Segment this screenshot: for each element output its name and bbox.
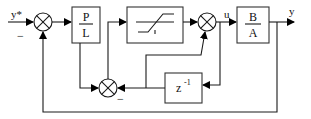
controller-to-antiwindup-arrow <box>80 43 98 88</box>
sum-antiwindup <box>99 79 117 97</box>
block-diagram: y* − P L u B A <box>0 0 311 119</box>
saturation-block <box>127 7 183 43</box>
controller-block: P L <box>72 7 100 43</box>
plant-block: B A <box>237 7 269 43</box>
controller-numerator: P <box>83 10 90 24</box>
plant-denominator: A <box>249 26 258 40</box>
reference-label: y* <box>11 8 22 20</box>
minus-sign-feedback: − <box>17 29 24 43</box>
control-to-delay-arrow <box>203 22 220 85</box>
controller-denominator: L <box>82 26 89 40</box>
control-signal-label: u <box>224 8 230 20</box>
sum-saturation-output <box>198 13 216 31</box>
antiwindup-to-saturation-arrow <box>108 22 126 79</box>
plant-numerator: B <box>249 10 257 24</box>
delay-block: z -1 <box>165 73 202 103</box>
delay-base: z <box>176 81 181 95</box>
delay-exponent: -1 <box>184 78 191 87</box>
output-label: y <box>289 5 295 17</box>
sum-reference-error <box>34 13 52 31</box>
minus-sign-delay: − <box>117 92 124 106</box>
